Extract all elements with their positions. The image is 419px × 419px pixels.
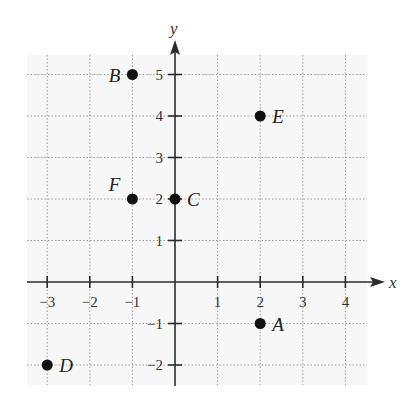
point-label: C <box>187 189 200 210</box>
y-axis-label: y <box>168 19 178 38</box>
y-tick-label: 3 <box>156 150 164 166</box>
coordinate-plane: x y −3−2−11234−2−112345 ABCDEF <box>0 0 419 419</box>
y-tick-label: −2 <box>147 357 163 373</box>
point-marker-icon <box>127 69 138 80</box>
x-tick-label: 1 <box>214 294 222 310</box>
y-tick-label: 4 <box>156 108 164 124</box>
x-tick-label: −3 <box>39 294 55 310</box>
point-marker-icon <box>255 318 266 329</box>
y-tick-label: −1 <box>147 316 163 332</box>
y-tick-label: 1 <box>156 233 164 249</box>
x-tick-label: −2 <box>82 294 98 310</box>
x-tick-label: 2 <box>256 294 264 310</box>
point-label: E <box>271 106 284 127</box>
point-label: F <box>108 174 121 195</box>
x-tick-label: 3 <box>299 294 307 310</box>
point-marker-icon <box>170 194 181 205</box>
grid-background <box>27 55 367 385</box>
point-marker-icon <box>42 360 53 371</box>
point-marker-icon <box>255 111 266 122</box>
y-tick-label: 5 <box>156 67 164 83</box>
x-axis-label: x <box>388 273 397 292</box>
x-tick-label: 4 <box>342 294 350 310</box>
x-tick-label: −1 <box>124 294 140 310</box>
point-marker-icon <box>127 194 138 205</box>
y-tick-label: 2 <box>156 191 164 207</box>
point-label: B <box>109 65 121 86</box>
point-label: A <box>270 314 284 335</box>
point-label: D <box>58 355 73 376</box>
